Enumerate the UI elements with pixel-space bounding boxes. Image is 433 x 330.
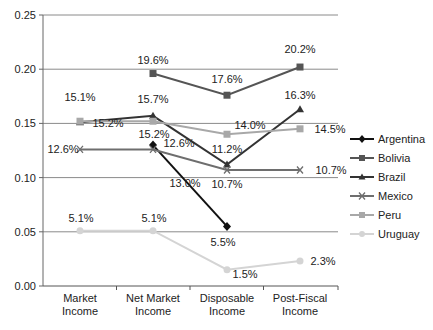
data-label: 15.2% — [92, 117, 123, 129]
data-label: 14.0% — [234, 119, 265, 131]
series-mexico — [77, 146, 303, 174]
series-uruguay — [77, 227, 304, 273]
legend-item-uruguay: Uruguay — [350, 228, 420, 240]
y-tick-label: 0.10 — [15, 172, 36, 184]
legend-item-brazil: Brazil — [350, 171, 406, 183]
data-label: 20.2% — [284, 43, 315, 55]
x-tick-label: Post-Fiscal — [273, 292, 327, 304]
data-label: 16.3% — [284, 89, 315, 101]
legend-item-argentina: Argentina — [350, 133, 426, 145]
legend-item-mexico: Mexico — [350, 190, 413, 202]
x-axis: MarketIncomeNet MarketIncomeDisposableIn… — [43, 286, 338, 317]
legend-label: Uruguay — [378, 228, 420, 240]
data-label: 15.2% — [138, 128, 169, 140]
data-label: 5.1% — [141, 212, 166, 224]
data-label: 15.7% — [137, 93, 168, 105]
y-tick-label: 0.20 — [15, 63, 36, 75]
legend-item-peru: Peru — [350, 209, 401, 221]
data-label: 1.5% — [232, 268, 257, 280]
data-label: 14.5% — [314, 123, 345, 135]
legend-item-bolivia: Bolivia — [350, 152, 411, 164]
data-label: 2.3% — [310, 255, 335, 267]
data-label: 11.2% — [212, 143, 243, 155]
data-label: 10.7% — [315, 164, 346, 176]
x-tick-label: Market — [63, 292, 97, 304]
x-tick-label: Income — [209, 305, 245, 317]
data-label: 19.6% — [137, 54, 168, 66]
line-chart: 0.000.050.100.150.200.25 MarketIncomeNet… — [0, 0, 433, 330]
x-tick-label: Net Market — [126, 292, 180, 304]
series-lines — [76, 64, 304, 274]
data-label: 15.1% — [64, 91, 95, 103]
legend-label: Bolivia — [378, 152, 411, 164]
data-label: 12.6% — [47, 143, 78, 155]
x-tick-label: Income — [282, 305, 318, 317]
data-label: 5.5% — [210, 236, 235, 248]
y-tick-label: 0.15 — [15, 117, 36, 129]
legend: ArgentinaBoliviaBrazilMexicoPeruUruguay — [350, 133, 426, 240]
x-tick-label: Income — [62, 305, 98, 317]
y-tick-label: 0.05 — [15, 226, 36, 238]
data-label: 5.1% — [68, 212, 93, 224]
data-label: 13.0% — [169, 177, 200, 189]
y-axis: 0.000.050.100.150.200.25 — [15, 9, 43, 292]
x-tick-label: Income — [135, 305, 171, 317]
legend-label: Mexico — [378, 190, 413, 202]
x-tick-label: Disposable — [200, 292, 254, 304]
y-tick-label: 0.00 — [15, 280, 36, 292]
data-label: 17.6% — [211, 73, 242, 85]
legend-label: Argentina — [378, 133, 426, 145]
legend-label: Peru — [378, 209, 401, 221]
y-tick-label: 0.25 — [15, 9, 36, 21]
data-label: 10.7% — [211, 178, 242, 190]
legend-label: Brazil — [378, 171, 406, 183]
